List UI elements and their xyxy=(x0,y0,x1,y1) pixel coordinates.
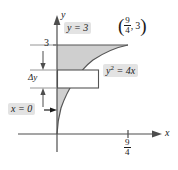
boundary-label-x-equals-0: x = 0 xyxy=(8,103,35,115)
y-axis-label: y xyxy=(61,10,65,20)
line-label-y-equals-3: y = 3 xyxy=(64,22,91,34)
y-axis-arrowhead xyxy=(54,15,61,25)
x-axis-label: x xyxy=(165,128,169,138)
curve-label-rest: = 4x xyxy=(114,65,135,76)
delta-y-arrow-lower-head xyxy=(40,88,45,95)
curve-label-y2-eq-4x: y2 = 4x xyxy=(103,64,138,77)
x-tick-label-nine-fourths: 9 4 xyxy=(124,138,131,157)
math-figure: y x 3 9 4 y = 3 y2 = 4x x = 0 Δy ( 9 4 ,… xyxy=(0,0,178,170)
fraction-numerator: 9 xyxy=(124,138,131,147)
delta-y-arrow-upper-head xyxy=(40,63,45,70)
fraction-denominator: 4 xyxy=(124,147,131,157)
point-close-paren: ) xyxy=(140,18,146,34)
point-comma: , xyxy=(131,21,134,31)
delta-y-label: Δy xyxy=(28,73,37,82)
representative-rectangle xyxy=(58,70,99,88)
shaded-region xyxy=(57,45,128,134)
fraction-nine-fourths: 9 4 xyxy=(124,138,131,157)
y-tick-label-3: 3 xyxy=(44,38,49,48)
point-label-nine-fourths-three: ( 9 4 , 3 ) xyxy=(118,16,147,35)
x0-pointer-arrowhead xyxy=(50,107,57,112)
x-axis-arrowhead xyxy=(152,131,162,138)
